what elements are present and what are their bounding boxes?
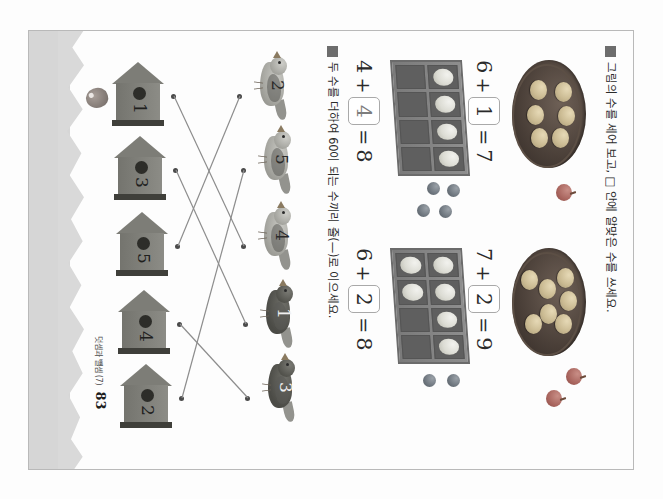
answer-box[interactable]: 4 xyxy=(348,97,380,125)
house-3[interactable]: 5 xyxy=(116,212,168,278)
answer-box[interactable]: 1 xyxy=(468,97,500,125)
house-2-label: 3 xyxy=(132,177,152,188)
house-4[interactable]: 4 xyxy=(118,290,170,356)
plus-sign: + xyxy=(353,265,375,281)
item-1-1-equation: 6 + 1 = 7 xyxy=(468,60,500,168)
loose-berry xyxy=(447,184,460,197)
bird-3[interactable]: 4 xyxy=(254,206,300,266)
problem-2-header: 두 수를 더하여 60이 되는 수끼리 줄(—)로 이으세요. xyxy=(326,46,340,318)
bird-1[interactable]: 2 xyxy=(250,56,296,116)
equals-sign: = xyxy=(353,129,375,145)
muffin-pan-illustration xyxy=(512,60,586,168)
item-1-2-equation: 7 + 2 = 9 xyxy=(468,248,500,356)
muffin-pan-illustration xyxy=(512,248,586,356)
page-number: 83 xyxy=(93,391,108,409)
bird-4-endpoint[interactable] xyxy=(243,322,248,327)
item-1-3: 4 + 4 = 8 xyxy=(348,60,466,176)
loose-apple xyxy=(546,390,562,407)
bird-5-label: 3 xyxy=(276,382,296,393)
equals-sign: = xyxy=(473,317,495,333)
house-1-label: 1 xyxy=(130,103,150,114)
house-5-endpoint[interactable] xyxy=(179,396,184,401)
bird-2-endpoint[interactable] xyxy=(241,168,246,173)
equals-sign: = xyxy=(473,129,495,145)
bird-2[interactable]: 5 xyxy=(254,130,300,190)
bird-3-label: 4 xyxy=(272,230,292,241)
bird-5-endpoint[interactable] xyxy=(245,396,250,401)
bird-1-label: 2 xyxy=(268,80,288,91)
item-1-4-equation: 6 + 2 = 8 xyxy=(348,248,380,364)
bird-3-endpoint[interactable] xyxy=(241,244,246,249)
square-bullet-icon xyxy=(327,46,338,57)
house-5-label: 2 xyxy=(138,405,158,416)
house-1[interactable]: 1 xyxy=(112,62,164,128)
equals-sign: = xyxy=(353,317,375,333)
bird-4-label: 1 xyxy=(274,308,294,319)
house-2[interactable]: 3 xyxy=(114,136,166,202)
loose-berry xyxy=(439,205,452,218)
house-3-endpoint[interactable] xyxy=(175,244,180,249)
operand-a: 6 xyxy=(352,248,376,261)
problem-1-instruction: 그림의 수를 세어 보고, □ 안에 알맞은 수를 쓰세요. xyxy=(604,62,618,312)
problem-2-instruction: 두 수를 더하여 60이 되는 수끼리 줄(—)로 이으세요. xyxy=(326,62,340,318)
problem-1-header: 그림의 수를 세어 보고, □ 안에 알맞은 수를 쓰세요. xyxy=(604,46,618,312)
loose-apple xyxy=(556,184,572,201)
item-1-2: 7 + 2 = 9 xyxy=(468,248,586,356)
result: 7 xyxy=(472,149,496,162)
item-1-1: 6 + 1 = 7 xyxy=(468,60,586,168)
loose-berry xyxy=(427,182,440,195)
egg-carton-illustration xyxy=(390,248,470,364)
result: 8 xyxy=(352,337,376,350)
result: 9 xyxy=(472,337,496,350)
plus-sign: + xyxy=(473,265,495,281)
house-3-label: 5 xyxy=(134,253,154,264)
loose-apple xyxy=(566,368,582,385)
problem-2: 두 수를 더하여 60이 되는 수끼리 줄(—)로 이으세요. xyxy=(326,46,340,318)
worksheet-sheet: 그림의 수를 세어 보고, □ 안에 알맞은 수를 쓰세요. 6 + xyxy=(92,36,626,448)
plus-sign: + xyxy=(473,77,495,93)
loose-berry xyxy=(447,374,460,387)
house-1-endpoint[interactable] xyxy=(171,94,176,99)
house-4-label: 4 xyxy=(136,331,156,342)
footer-chapter-label: 덧셈과 뺄셈 (7) xyxy=(94,336,105,385)
house-2-endpoint[interactable] xyxy=(173,168,178,173)
scanned-page-canvas: 그림의 수를 세어 보고, □ 안에 알맞은 수를 쓰세요. 6 + xyxy=(0,0,663,499)
square-bullet-icon xyxy=(605,46,616,57)
house-4-endpoint[interactable] xyxy=(177,322,182,327)
egg-carton-illustration xyxy=(390,60,470,176)
operand-a: 6 xyxy=(472,60,496,73)
loose-berry xyxy=(417,204,430,217)
result: 8 xyxy=(352,149,376,162)
answer-box[interactable]: 2 xyxy=(348,285,380,313)
bird-5[interactable]: 3 xyxy=(258,358,304,418)
problem-1: 그림의 수를 세어 보고, □ 안에 알맞은 수를 쓰세요. xyxy=(604,46,618,312)
item-1-3-equation: 4 + 4 = 8 xyxy=(348,60,380,176)
plus-sign: + xyxy=(353,77,375,93)
house-5[interactable]: 2 xyxy=(120,364,172,430)
bird-4[interactable]: 1 xyxy=(256,284,302,344)
item-1-4: 6 + 2 = 8 xyxy=(348,248,466,364)
answer-box[interactable]: 2 xyxy=(468,285,500,313)
rotated-content-plane: 그림의 수를 세어 보고, □ 안에 알맞은 수를 쓰세요. 6 + xyxy=(86,36,626,448)
page-footer: 덧셈과 뺄셈 (7) 83 xyxy=(93,336,108,410)
loose-berry xyxy=(423,374,436,387)
bird-1-endpoint[interactable] xyxy=(237,94,242,99)
operand-a: 7 xyxy=(472,248,496,261)
bird-2-label: 5 xyxy=(272,154,292,165)
operand-a: 4 xyxy=(352,60,376,73)
